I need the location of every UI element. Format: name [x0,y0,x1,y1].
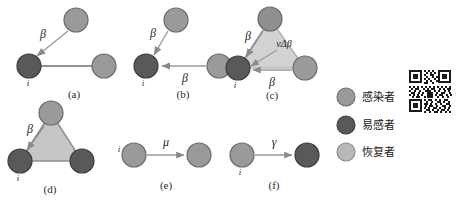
panel-d-caption: (d) [44,183,57,196]
panel-f-gamma-label: γ [272,135,277,149]
panel-c-caption: (c) [266,89,279,102]
panel-c-beta-label-top: β [244,29,251,43]
panel-c-node-left-susceptible [226,56,250,80]
panel-a-node-right-infected [92,54,116,78]
panel-d-beta-label: β [26,122,33,136]
panel-b-node-top-infected [164,8,188,32]
panel-d-node-left-susceptible [8,149,32,173]
legend-item-recovered: 恢复者 [337,143,395,161]
legend-item-susceptible: 易感者 [337,116,395,134]
panel-c-node-top-infected [258,7,282,31]
panel-b-beta-label-top: β [149,26,156,40]
legend-label-recovered: 恢复者 [362,145,395,159]
panel-c-beta-label-right: β [268,75,275,89]
legend: 感染者 易感者 恢复者 [337,88,395,161]
legend-swatch-susceptible [337,116,355,134]
panel-d-node-top-infected [39,101,63,125]
panel-a-beta-label: β [39,27,46,41]
panel-a-node-left-susceptible [17,54,41,78]
panel-b-node-left-susceptible [134,54,158,78]
diagram-svg: β i (a) β β i (b) β νΔβ β [0,0,458,201]
panel-e-node-right-infected [187,143,211,167]
legend-swatch-infected [337,88,355,106]
panel-d-node-right-susceptible [70,149,94,173]
panel-a-caption: (a) [68,88,81,101]
legend-swatch-recovered [337,143,355,161]
panel-f-node-right-susceptible [295,143,319,167]
legend-label-susceptible: 易感者 [362,119,395,132]
figure-container: β i (a) β β i (b) β νΔβ β [0,0,458,201]
panel-e-node-left-infected [122,143,146,167]
panel-b-beta-label-right: β [181,71,188,85]
panel-f-node-left-infected [230,143,254,167]
panel-f-caption: (f) [269,179,280,192]
panel-e-mu-label: μ [162,135,169,149]
panel-c-node-right-infected [293,56,317,80]
legend-label-infected: 感染者 [362,90,395,104]
legend-item-infected: 感染者 [337,88,395,106]
panel-c-nu-delta-beta-label: νΔβ [276,38,291,49]
panel-a-node-top-infected [64,8,88,32]
panel-e-caption: (e) [160,179,173,192]
panel-b-caption: (b) [177,88,190,101]
qr-code[interactable] [408,69,452,113]
